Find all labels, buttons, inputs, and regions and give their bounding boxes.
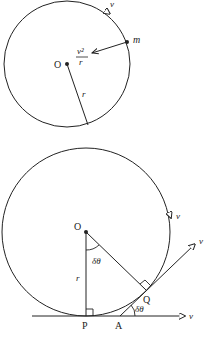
angle-arc-O — [86, 245, 99, 250]
velocity-label: v — [110, 0, 114, 9]
circular-motion-diagram: v m v² r O r v O r δθ — [0, 0, 209, 345]
right-angle-P — [86, 309, 93, 316]
top-circle-diagram: v m v² r O r — [4, 0, 140, 127]
acceleration-numerator: v² — [77, 46, 84, 56]
acceleration-denominator: r — [79, 57, 83, 67]
horizontal-velocity-label: v — [189, 311, 193, 321]
angle-O-label: δθ — [92, 256, 101, 266]
velocity-arrow-icon — [100, 7, 110, 14]
point-P-label: P — [82, 320, 88, 331]
angle-A-label: δθ — [135, 304, 144, 314]
radius-label: r — [76, 273, 80, 283]
bottom-circle-diagram: v O r δθ v v δθ P A Q — [2, 148, 203, 331]
acceleration-arrow — [92, 42, 127, 53]
circle-velocity-label: v — [176, 211, 180, 221]
mass-label: m — [133, 34, 140, 45]
center-label: O — [74, 221, 81, 232]
radius-label: r — [82, 89, 86, 99]
center-label: O — [54, 59, 61, 70]
point-A-label: A — [115, 320, 123, 331]
point-Q-label: Q — [143, 294, 151, 305]
tangent-velocity-label: v — [199, 236, 203, 246]
